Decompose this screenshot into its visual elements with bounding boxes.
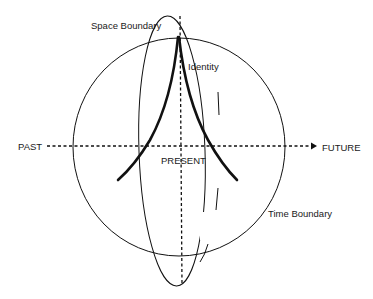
space-boundary-fragment [216, 188, 218, 210]
label-future: FUTURE [322, 142, 361, 153]
label-time-boundary: Time Boundary [268, 208, 332, 219]
arrow-right-icon [311, 143, 317, 150]
label-space-boundary: Space Boundary [91, 20, 161, 31]
space-boundary-ellipse [134, 15, 209, 287]
label-identity: Identity [188, 61, 219, 72]
space-boundary-fragment [218, 92, 219, 115]
label-present: PRESENT [161, 155, 206, 166]
time-boundary-circle [73, 38, 285, 256]
label-past: PAST [18, 141, 42, 152]
diagram-canvas: Space Boundary Identity PAST FUTURE PRES… [0, 0, 373, 299]
